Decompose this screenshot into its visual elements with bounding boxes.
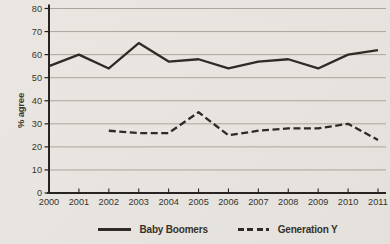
y-axis-title: % agree [15,93,26,128]
x-tick-label: 2002 [99,197,119,207]
x-tick-label: 2004 [158,197,178,207]
x-tick-label: 2000 [39,197,59,207]
y-tick-label: 70 [32,27,42,37]
y-tick-label: 60 [32,50,42,60]
series-line-generation-y [109,112,378,140]
y-tick-label: 80 [32,4,42,14]
x-tick-label: 2007 [248,197,268,207]
legend-item-baby-boomers: Baby Boomers [98,224,208,235]
legend-item-generation-y: Generation Y [238,224,338,235]
series-line-baby-boomers [49,43,378,68]
y-tick-label: 30 [32,119,42,129]
x-tick-label: 2011 [368,197,388,207]
x-tick-label: 2005 [188,197,208,207]
x-tick-label: 2001 [69,197,89,207]
legend: Baby Boomers Generation Y [49,220,386,238]
y-tick-label: 50 [32,73,42,83]
dashed-line-swatch [238,228,269,231]
y-tick-label: 20 [32,142,42,152]
x-tick-label: 2006 [218,197,238,207]
x-tick-label: 2003 [129,197,149,207]
y-tick-label: 10 [32,165,42,175]
solid-line-swatch [98,228,131,231]
chart-area: 0102030405060708020002001200220032004200… [0,0,390,244]
y-tick-label: 40 [32,96,42,106]
legend-label-generation-y: Generation Y [278,224,338,235]
x-tick-label: 2009 [308,197,328,207]
plot-svg: 0102030405060708020002001200220032004200… [0,0,390,244]
x-tick-label: 2010 [338,197,358,207]
x-tick-label: 2008 [278,197,298,207]
legend-label-baby-boomers: Baby Boomers [140,224,208,235]
